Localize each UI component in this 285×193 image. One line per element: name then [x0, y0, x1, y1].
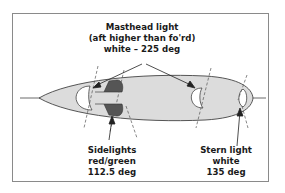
stern-label-line2: white — [196, 156, 256, 167]
sidelights-label: Sidelights red/green 112.5 deg — [80, 145, 144, 178]
stern-light-label: Stern light white 135 deg — [196, 145, 256, 178]
masthead-label-line2: (aft higher than fo'rd) — [86, 33, 198, 44]
masthead-label-line1: Masthead light — [86, 22, 198, 33]
stern-label-line3: 135 deg — [196, 167, 256, 178]
masthead-label-line3: white – 225 deg — [86, 44, 198, 55]
sidelights-label-line2: red/green — [80, 156, 144, 167]
sidelights-label-line3: 112.5 deg — [80, 167, 144, 178]
stern-label-line1: Stern light — [196, 145, 256, 156]
masthead-light-label: Masthead light (aft higher than fo'rd) w… — [86, 22, 198, 55]
hull-outline — [39, 75, 253, 120]
sidelights-label-line1: Sidelights — [80, 145, 144, 156]
stern-light-icon — [239, 89, 247, 107]
